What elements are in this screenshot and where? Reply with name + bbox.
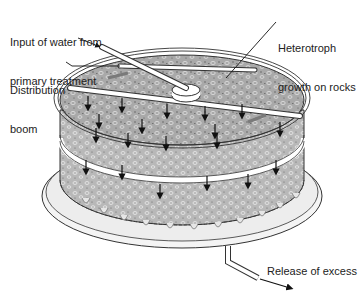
label-boom-line1: Distribution bbox=[10, 84, 65, 97]
label-boom: Distribution boom bbox=[10, 58, 65, 149]
label-release-line1: Release of excess bbox=[267, 265, 357, 278]
label-heterotroph: Heterotroph growth on rocks bbox=[278, 16, 356, 107]
label-release: Release of excess biofilm and treated wa… bbox=[267, 239, 357, 297]
label-boom-line2: boom bbox=[10, 123, 65, 136]
label-heterotroph-line1: Heterotroph bbox=[278, 42, 356, 55]
label-heterotroph-line2: growth on rocks bbox=[278, 81, 356, 94]
label-input-line1: Input of water from bbox=[10, 36, 102, 49]
